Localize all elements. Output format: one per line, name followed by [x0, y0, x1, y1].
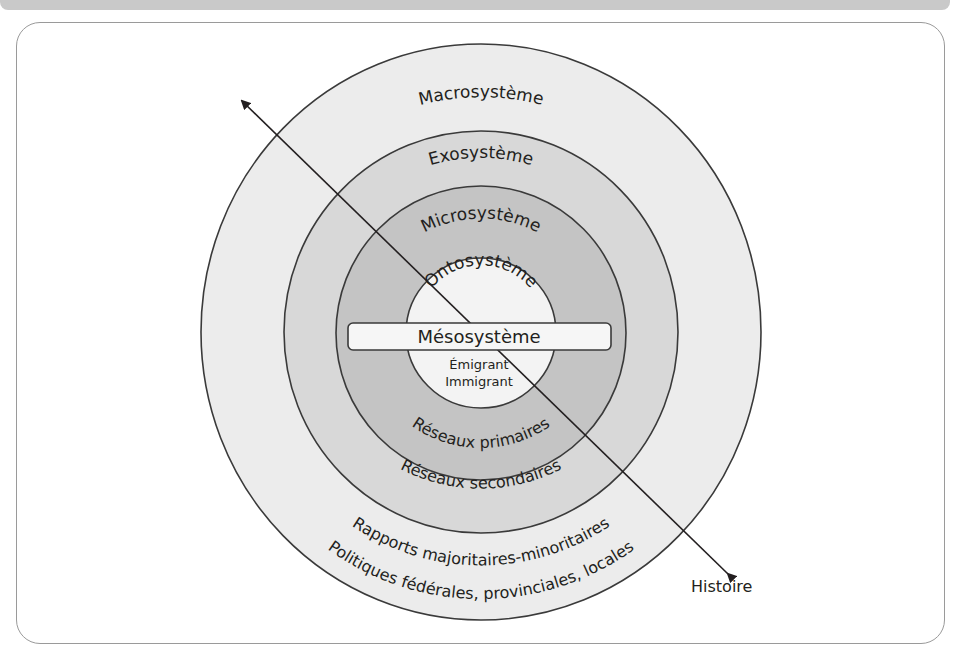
mesosystem-label: Mésosystème — [417, 326, 540, 347]
immigrant-label: Immigrant — [445, 374, 513, 389]
ecosystem-diagram: Macrosystème Exosystème Microsystème Ont… — [0, 0, 957, 656]
history-label: Histoire — [691, 577, 752, 596]
emigrant-label: Émigrant — [449, 357, 508, 372]
